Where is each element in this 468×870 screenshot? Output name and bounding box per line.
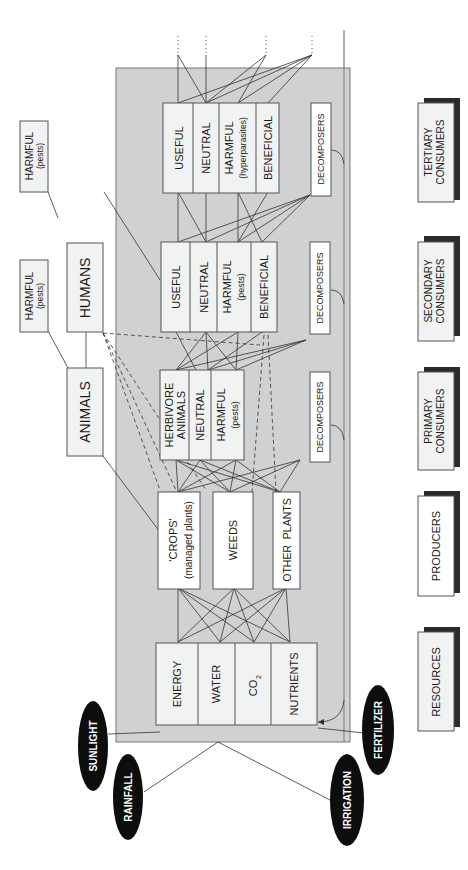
- resource-nutrients: NUTRIENTS: [288, 653, 300, 716]
- input-rainfall: RAINFALL: [113, 754, 143, 840]
- primary-herbivore: HERBIVORE: [163, 383, 175, 448]
- tertiary-harmful: HARMFUL: [223, 121, 235, 174]
- svg-text:RAINFALL: RAINFALL: [123, 772, 134, 821]
- outside-harmful-humans: HARMFUL (pests): [20, 121, 48, 192]
- decomposers-secondary: DECOMPOSERS: [315, 252, 325, 323]
- producer-weeds: WEEDS: [227, 520, 239, 560]
- svg-text:HUMANS: HUMANS: [77, 258, 93, 319]
- primary-herbivore-line2: ANIMALS: [175, 391, 187, 439]
- level-tertiary-consumers: TERTIARY CONSUMERS: [418, 98, 460, 202]
- decomposers-primary: DECOMPOSERS: [315, 381, 325, 452]
- input-irrigation: IRRIGATION: [330, 754, 364, 846]
- resource-co2-sub: 2: [255, 675, 262, 679]
- humans-box: HUMANS: [67, 243, 103, 332]
- primary-harmful-sub: (pests): [230, 401, 240, 429]
- resource-water: WATER: [210, 665, 222, 704]
- tertiary-neutral: NEUTRAL: [200, 122, 212, 173]
- producer-crops-sub: (managed plants): [183, 501, 194, 579]
- resource-energy: ENERGY: [171, 660, 183, 707]
- secondary-harmful-sub: (pests): [236, 273, 246, 301]
- svg-text:FERTILIZER: FERTILIZER: [373, 700, 384, 759]
- tertiary-beneficial: BENEFICIAL: [262, 116, 274, 180]
- svg-text:PRIMARY: PRIMARY: [423, 398, 434, 444]
- level-secondary-consumers: SECONDARY CONSUMERS: [418, 236, 460, 341]
- svg-text:HARMFUL: HARMFUL: [24, 131, 35, 180]
- svg-text:PRODUCERS: PRODUCERS: [430, 511, 442, 581]
- continuation-dots: [178, 36, 312, 55]
- decomposers-tertiary: DECOMPOSERS: [316, 113, 326, 184]
- outside-harmful-animals: HARMFUL (pests): [20, 260, 48, 332]
- producer-other-plants: OTHER PLANTS: [281, 498, 293, 581]
- tertiary-useful: USEFUL: [173, 126, 185, 169]
- level-producers: PRODUCERS: [418, 491, 460, 596]
- secondary-neutral: NEUTRAL: [198, 261, 210, 312]
- svg-text:RESOURCES: RESOURCES: [430, 647, 442, 717]
- svg-text:CONSUMERS: CONSUMERS: [435, 119, 446, 184]
- secondary-consumers-stack: USEFUL NEUTRAL HARMFUL (pests) BENEFICIA…: [161, 242, 277, 332]
- tertiary-consumers-stack: USEFUL NEUTRAL HARMFUL (hyperparasites) …: [163, 103, 279, 193]
- animals-box: ANIMALS: [67, 368, 103, 456]
- svg-text:HARMFUL: HARMFUL: [24, 271, 35, 320]
- tertiary-harmful-sub: (hyperparasites): [238, 117, 248, 179]
- primary-neutral: NEUTRAL: [194, 389, 206, 440]
- resources-stack: ENERGY WATER CO 2 NUTRIENTS: [156, 643, 317, 725]
- svg-text:(pests): (pests): [35, 283, 45, 309]
- agroecosystem-food-web-diagram: USEFUL NEUTRAL HARMFUL (hyperparasites) …: [0, 0, 468, 870]
- input-sunlight: SUNLIGHT: [78, 701, 108, 791]
- producers-boxes: 'CROPS' (managed plants) WEEDS OTHER PLA…: [158, 492, 300, 589]
- svg-text:IRRIGATION: IRRIGATION: [342, 771, 353, 829]
- svg-text:SUNLIGHT: SUNLIGHT: [88, 720, 99, 771]
- primary-harmful: HARMFUL: [215, 388, 227, 441]
- input-fertilizer: FERTILIZER: [362, 685, 394, 775]
- level-resources: RESOURCES: [418, 627, 460, 731]
- svg-text:TERTIARY: TERTIARY: [423, 127, 434, 176]
- producer-crops: 'CROPS': [167, 518, 179, 561]
- level-primary-consumers: PRIMARY CONSUMERS: [418, 367, 460, 470]
- resource-co2: CO: [247, 679, 259, 696]
- secondary-harmful: HARMFUL: [221, 260, 233, 313]
- decomposers-boxes: DECOMPOSERS DECOMPOSERS DECOMPOSERS: [310, 103, 331, 462]
- secondary-beneficial: BENEFICIAL: [258, 255, 270, 319]
- svg-text:CONSUMERS: CONSUMERS: [435, 258, 446, 323]
- svg-text:SECONDARY: SECONDARY: [423, 259, 434, 322]
- primary-consumers-stack: HERBIVORE ANIMALS NEUTRAL HARMFUL (pests…: [160, 370, 244, 460]
- svg-text:CONSUMERS: CONSUMERS: [435, 388, 446, 453]
- svg-text:ANIMALS: ANIMALS: [77, 381, 93, 442]
- svg-text:(pests): (pests): [35, 143, 45, 169]
- secondary-useful: USEFUL: [170, 265, 182, 308]
